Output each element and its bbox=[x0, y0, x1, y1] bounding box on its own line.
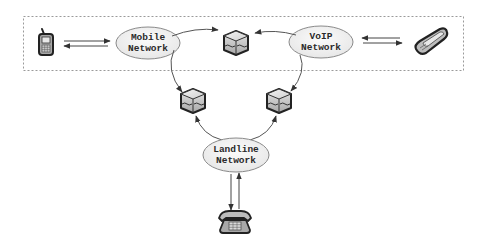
voip-phone-icon bbox=[416, 28, 448, 53]
landline-network-label-line1: Landline bbox=[213, 144, 259, 155]
mobile-network-label-line1: Mobile bbox=[131, 32, 166, 43]
landline-network-label-line2: Network bbox=[216, 155, 256, 166]
voip-network-node: VoIP Network bbox=[289, 26, 353, 58]
gateway-right-icon bbox=[267, 89, 291, 113]
edge-voip-network-to-gateway-right bbox=[291, 55, 302, 91]
edge-landline-network-to-gateway-right bbox=[250, 116, 276, 140]
network-diagram: Mobile Network VoIP Network Landline Net… bbox=[0, 0, 487, 235]
landline-network-node: Landline Network bbox=[203, 138, 269, 172]
voip-network-label-line1: VoIP bbox=[310, 31, 333, 42]
edge-landline-network-to-gateway-left bbox=[196, 116, 222, 140]
landline-phone-icon bbox=[219, 211, 251, 233]
mobile-network-label-line2: Network bbox=[128, 43, 168, 54]
voip-network-label-line2: Network bbox=[301, 42, 341, 53]
edge-mobile-network-to-gateway-top bbox=[172, 29, 218, 36]
mobile-phone-icon bbox=[39, 29, 53, 55]
gateway-top-icon bbox=[224, 31, 248, 55]
gateway-left-icon bbox=[181, 89, 205, 113]
mobile-network-node: Mobile Network bbox=[116, 27, 180, 59]
edge-voip-network-to-gateway-top bbox=[255, 31, 296, 35]
